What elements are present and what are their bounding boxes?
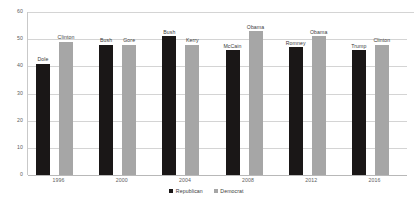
bar-data-label: McCain xyxy=(223,43,241,49)
bar-democrat-2000[interactable]: Gore xyxy=(122,45,136,175)
bar-data-label: Trump xyxy=(351,43,366,49)
bar-data-label: Clinton xyxy=(58,34,75,40)
bar-republican-2008[interactable]: McCain xyxy=(226,50,240,175)
legend-label: Democrat xyxy=(220,188,243,194)
y-tick-label: 0 xyxy=(20,172,23,177)
bar-data-label: Dole xyxy=(37,56,48,62)
legend-swatch-republican-icon xyxy=(169,189,173,193)
bar-democrat-2012[interactable]: Obama xyxy=(312,36,326,175)
bar-republican-1996[interactable]: Dole xyxy=(36,64,50,175)
bar-data-label: Obama xyxy=(310,29,328,35)
legend-item-republican[interactable]: Republican xyxy=(169,188,202,194)
bar-republican-2016[interactable]: Trump xyxy=(352,50,366,175)
x-tick-label-2004: 2004 xyxy=(179,177,191,183)
legend-item-democrat[interactable]: Democrat xyxy=(214,188,244,194)
y-tick-label: 10 xyxy=(17,145,23,150)
gridline xyxy=(28,175,407,176)
bar-republican-2000[interactable]: Bush xyxy=(99,45,113,175)
legend-label: Republican xyxy=(176,188,203,194)
bar-data-label: Obama xyxy=(247,24,265,30)
y-tick-label: 40 xyxy=(17,64,23,69)
bar-republican-2012[interactable]: Romney xyxy=(289,47,303,175)
x-tick-label-1996: 1996 xyxy=(53,177,65,183)
bar-democrat-1996[interactable]: Clinton xyxy=(59,42,73,175)
bar-group: BushGore xyxy=(90,12,153,175)
bar-group: RomneyObama xyxy=(280,12,343,175)
bar-data-label: Gore xyxy=(123,37,135,43)
bar-data-label: Bush xyxy=(163,29,175,35)
x-tick-label-2000: 2000 xyxy=(116,177,128,183)
y-tick-label: 50 xyxy=(17,37,23,42)
bar-democrat-2008[interactable]: Obama xyxy=(249,31,263,175)
chart-legend: RepublicanDemocrat xyxy=(0,188,413,194)
x-tick-label-2012: 2012 xyxy=(305,177,317,183)
bars-layer: DoleClintonBushGoreBushKerryMcCainObamaR… xyxy=(27,12,406,175)
x-tick-label-2008: 2008 xyxy=(242,177,254,183)
bar-group: BushKerry xyxy=(153,12,216,175)
bar-group: TrumpClinton xyxy=(343,12,406,175)
bar-data-label: Clinton xyxy=(373,37,390,43)
bar-democrat-2016[interactable]: Clinton xyxy=(375,45,389,175)
y-tick-label: 60 xyxy=(17,9,23,14)
y-tick-label: 20 xyxy=(17,118,23,123)
bar-republican-2004[interactable]: Bush xyxy=(162,36,176,175)
y-axis: 0102030405060 xyxy=(0,12,27,175)
bar-data-label: Romney xyxy=(286,40,306,46)
bar-data-label: Kerry xyxy=(186,37,199,43)
y-tick-label: 30 xyxy=(17,91,23,96)
bar-data-label: Bush xyxy=(100,37,112,43)
legend-swatch-democrat-icon xyxy=(214,189,218,193)
bar-group: DoleClinton xyxy=(27,12,90,175)
bar-group: McCainObama xyxy=(217,12,280,175)
x-tick-label-2016: 2016 xyxy=(368,177,380,183)
bar-democrat-2004[interactable]: Kerry xyxy=(185,45,199,175)
